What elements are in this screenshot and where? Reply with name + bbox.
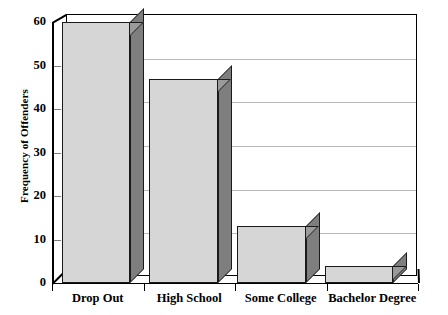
y-tick-mark <box>54 109 61 110</box>
perspective-edge-bottom-right <box>417 269 419 283</box>
y-tick-mark <box>54 240 61 241</box>
y-tick-label: 60 <box>20 15 46 28</box>
bar <box>149 65 231 283</box>
bar-front-face <box>325 266 393 283</box>
x-category-label: Bachelor Degree <box>327 291 419 306</box>
y-tick-label: 10 <box>20 233 46 246</box>
y-tick-label: 30 <box>20 146 46 159</box>
bar-front-face <box>149 79 217 283</box>
y-tick-label: 0 <box>20 276 46 289</box>
x-tick-mark <box>144 284 145 291</box>
x-tick-mark <box>52 284 53 291</box>
y-axis-tick-labels: 0102030405060 <box>10 0 46 315</box>
bar-front-face <box>237 226 305 283</box>
bar <box>325 252 407 283</box>
y-tick-mark <box>54 196 61 197</box>
x-tick-mark <box>235 284 236 291</box>
y-tick-mark <box>54 153 61 154</box>
x-axis-labels: Drop OutHigh SchoolSome CollegeBachelor … <box>52 291 418 313</box>
bar-front-face <box>62 22 130 283</box>
x-category-label: Drop Out <box>52 291 144 306</box>
y-tick-mark <box>54 66 61 67</box>
bar <box>237 212 319 283</box>
bar-side-face <box>218 65 232 283</box>
bar-chart: Frequency of Offenders 0102030405060 Dro… <box>0 0 448 315</box>
y-tick-label: 40 <box>20 102 46 115</box>
plot-area <box>52 14 418 286</box>
y-tick-label: 20 <box>20 189 46 202</box>
bar-side-face <box>306 212 320 283</box>
x-category-label: High School <box>144 291 236 306</box>
x-category-label: Some College <box>235 291 327 306</box>
x-tick-mark <box>327 284 328 291</box>
bar <box>62 8 144 283</box>
x-tick-mark <box>418 284 419 291</box>
bar-side-face <box>130 8 144 283</box>
y-tick-label: 50 <box>20 59 46 72</box>
